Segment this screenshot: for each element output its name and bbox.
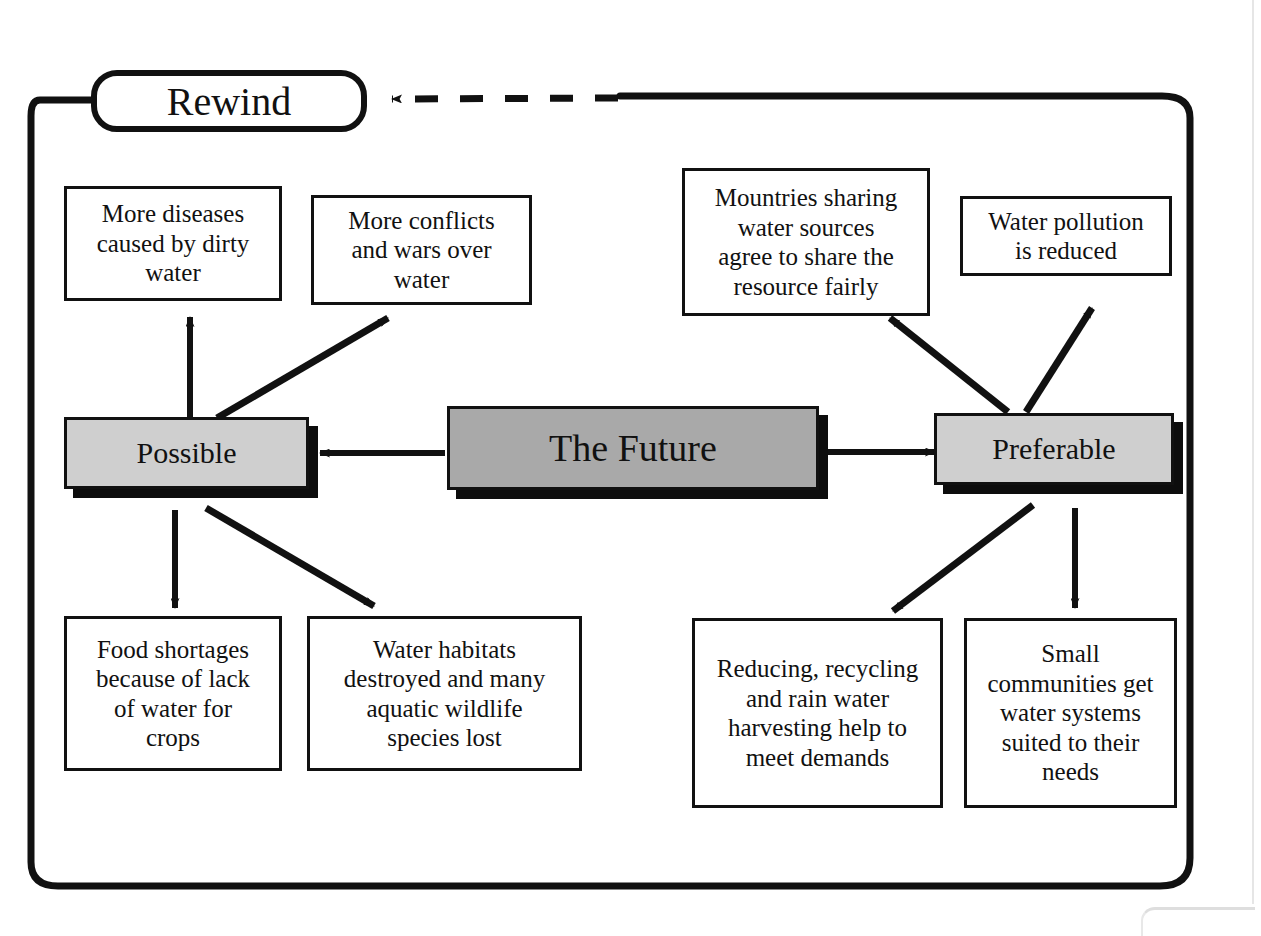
outcome-box-reducing-recycling[interactable]: Reducing, recycling and rain water harve… bbox=[692, 618, 943, 808]
outcome-box-more-conflicts[interactable]: More conflicts and wars over water bbox=[311, 195, 532, 305]
page-corner-artifact bbox=[1141, 907, 1255, 936]
edge-possible-to-more-conflicts bbox=[217, 318, 388, 418]
central-node-label: The Future bbox=[549, 426, 717, 470]
category-node-possible-label: Possible bbox=[136, 436, 236, 470]
edge-preferable-to-water-pollution bbox=[1026, 308, 1092, 412]
edge-preferable-to-reducing-recycling bbox=[893, 505, 1033, 611]
category-node-preferable[interactable]: Preferable bbox=[934, 413, 1174, 485]
rewind-label: Rewind bbox=[167, 78, 291, 125]
central-node-the-future[interactable]: The Future bbox=[447, 406, 819, 490]
outcome-box-countries-sharing[interactable]: Mountries sharing water sources agree to… bbox=[682, 168, 930, 316]
edge-possible-to-water-habitats bbox=[206, 508, 374, 606]
category-node-possible[interactable]: Possible bbox=[64, 417, 309, 489]
outcome-box-small-communities[interactable]: Small communities get water systems suit… bbox=[964, 618, 1177, 808]
rewind-return-edge bbox=[392, 98, 618, 99]
page-edge-artifact bbox=[1252, 0, 1254, 904]
outcome-box-water-pollution-reduced[interactable]: Water pollution is reduced bbox=[960, 196, 1172, 276]
rewind-node[interactable]: Rewind bbox=[91, 70, 367, 132]
outcome-box-food-shortages[interactable]: Food shortages because of lack of water … bbox=[64, 616, 282, 771]
edge-preferable-to-countries-sharing bbox=[890, 318, 1008, 412]
outcome-box-more-diseases[interactable]: More diseases caused by dirty water bbox=[64, 186, 282, 301]
category-node-preferable-label: Preferable bbox=[992, 432, 1115, 466]
diagram-canvas: Rewind The Future Possible Preferable Mo… bbox=[0, 0, 1261, 936]
outcome-box-water-habitats[interactable]: Water habitats destroyed and many aquati… bbox=[307, 616, 582, 771]
